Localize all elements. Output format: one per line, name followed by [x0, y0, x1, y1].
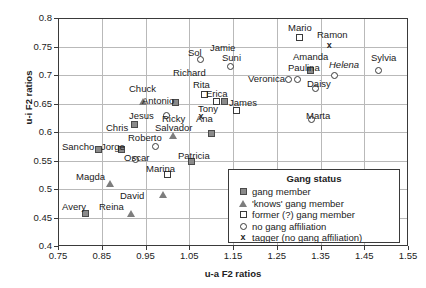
legend-label: gang member: [252, 186, 311, 197]
data-point-veronica2: [294, 76, 301, 83]
y-tick: [54, 189, 58, 190]
x-tick-label: 1.05: [169, 250, 209, 261]
y-tick: [54, 218, 58, 219]
legend-row: 'knows' gang member: [234, 198, 394, 210]
x-tick-label: 0.95: [126, 250, 166, 261]
gridline-horizontal: [59, 161, 407, 162]
legend-label: former (?) gang member: [252, 209, 355, 220]
legend-symbol-triangle-icon: [234, 198, 252, 210]
legend-row: xtagger (no gang affiliation): [234, 232, 394, 244]
y-tick: [54, 104, 58, 105]
point-label-marta: Marta: [306, 110, 330, 121]
y-tick-label: 0.55: [10, 155, 52, 166]
y-tick-label: 0.5: [10, 183, 52, 194]
point-label-suni: Suni: [222, 52, 241, 63]
legend-label: tagger (no gang affiliation): [252, 232, 362, 243]
y-tick: [54, 161, 58, 162]
point-label-oscar: Oscar: [124, 152, 149, 163]
point-label-ana: Ana: [196, 113, 213, 124]
point-label-chris: Chris: [106, 122, 128, 133]
data-point-chris: [131, 121, 138, 128]
data-point-david: [159, 191, 167, 198]
legend-row: no gang affiliation: [234, 221, 394, 233]
data-point-mario: [296, 34, 303, 41]
chart-root: u-i F2 ratios u-a F2 ratios 0.750.850.95…: [0, 0, 426, 288]
x-tick-label: 1.15: [213, 250, 253, 261]
point-label-daisy: Daisy: [307, 78, 331, 89]
point-label-richard: Richard: [173, 67, 206, 78]
y-tick: [54, 18, 58, 19]
data-point-helena: [331, 72, 338, 79]
x-tick-label: 1.35: [301, 250, 341, 261]
point-label-antonio: Antonio: [142, 95, 174, 106]
legend-symbol-cross-icon: x: [234, 232, 252, 244]
point-label-amanda: Amanda: [293, 51, 328, 62]
point-label-erica: Erica: [206, 88, 228, 99]
x-tick-label: 1.45: [344, 250, 384, 261]
legend-label: no gang affiliation: [252, 221, 326, 232]
y-tick-label: 0.75: [10, 41, 52, 52]
point-label-sancho: Sancho: [62, 141, 94, 152]
legend-rows: gang member'knows' gang memberformer (?)…: [234, 186, 394, 244]
x-tick-label: 1.25: [257, 250, 297, 261]
legend-symbol-open-square-icon: [234, 209, 252, 221]
x-tick-label: 0.85: [82, 250, 122, 261]
y-tick: [54, 75, 58, 76]
point-label-chuck: Chuck: [129, 83, 156, 94]
y-tick-label: 0.7: [10, 69, 52, 80]
point-label-roberto: Roberto: [128, 132, 162, 143]
legend-symbol-circle-icon: [234, 221, 252, 233]
point-label-veronica: Veronica: [248, 73, 285, 84]
point-label-mario: Mario: [288, 22, 312, 33]
y-tick-label: 0.6: [10, 126, 52, 137]
y-tick-label: 0.8: [10, 12, 52, 23]
data-point-robertoc: [152, 143, 159, 150]
x-tick-label: 0.75: [38, 250, 78, 261]
data-point-salvador: [208, 130, 215, 137]
data-point-roberto: [169, 132, 177, 139]
legend-row: former (?) gang member: [234, 209, 394, 221]
data-point-tony: [233, 107, 240, 114]
point-label-sylvia: Sylvia: [371, 52, 396, 63]
point-label-jesus: Jesus: [129, 110, 154, 121]
legend: Gang status gang member'knows' gang memb…: [228, 169, 400, 243]
y-tick: [54, 246, 58, 247]
data-point-ramon: x: [325, 41, 333, 50]
point-label-reina: Reina: [99, 201, 124, 212]
y-tick-label: 0.4: [10, 240, 52, 251]
point-label-marina: Marina: [146, 163, 175, 174]
point-label-magda: Magda: [76, 171, 105, 182]
legend-title: Gang status: [234, 173, 394, 184]
point-label-james: James: [229, 97, 257, 108]
point-label-jorge: Jorge: [101, 141, 125, 152]
point-label-helena: Helena: [329, 59, 359, 70]
x-axis-title: u-a F2 ratios: [58, 268, 408, 279]
legend-row: gang member: [234, 186, 394, 198]
legend-symbol-filled-square-icon: [234, 186, 252, 198]
x-tick-label: 1.55: [388, 250, 426, 261]
y-tick-label: 0.65: [10, 98, 52, 109]
data-point-magda: [106, 180, 114, 187]
data-point-reina: [127, 210, 135, 217]
gridline-horizontal: [59, 75, 407, 76]
point-label-paulina: Paulina: [288, 62, 320, 73]
point-label-patricia: Patricia: [178, 150, 210, 161]
y-tick: [54, 47, 58, 48]
legend-label: 'knows' gang member: [252, 198, 344, 209]
point-label-david: David: [120, 190, 144, 201]
y-tick-label: 0.45: [10, 212, 52, 223]
point-label-sol: Sol: [188, 47, 202, 58]
point-label-avery: Avery: [62, 201, 86, 212]
point-label-ramon: Ramon: [317, 29, 348, 40]
y-tick: [54, 132, 58, 133]
